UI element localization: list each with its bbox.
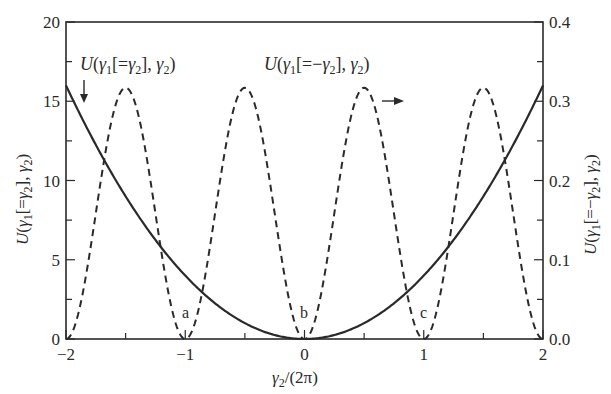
y-right-tick-label: 0.2 (549, 172, 570, 191)
annotation-solid-label: U(γ1[=γ2], γ2) (80, 54, 175, 77)
annotation-solid-curve: U(γ1[=γ2], γ2) (80, 54, 175, 103)
point-label-c: c (420, 304, 427, 321)
y-right-tick-label: 0.0 (549, 330, 570, 349)
curves (66, 85, 543, 339)
y-right-tick-label: 0.4 (549, 13, 571, 32)
y-left-tick-label: 20 (43, 13, 60, 32)
y-axis-right-title: U(γ1[=−γ2], γ2) (581, 154, 603, 255)
y-left-tick-label: 0 (52, 330, 61, 349)
x-tick-label: 0 (300, 345, 309, 364)
x-axis-title: γ2/(2π) (272, 368, 318, 390)
point-label-a: a (182, 304, 189, 321)
annotation-dashed-label: U(γ1[=−γ2], γ2) (264, 54, 370, 77)
arrow-down-icon (80, 80, 88, 103)
chart: −2−1012051015200.00.10.20.30.4 U(γ1[=γ2]… (0, 0, 611, 394)
solid-curve-series (66, 85, 543, 339)
y-axis-left-title: U(γ1[=γ2], γ2) (13, 154, 35, 245)
point-label-b: b (300, 304, 308, 321)
y-right-tick-label: 0.1 (549, 251, 570, 270)
x-tick-label: −1 (176, 345, 194, 364)
plot-area: −2−1012051015200.00.10.20.30.4 U(γ1[=γ2]… (0, 0, 611, 394)
arrow-right-icon (382, 97, 404, 105)
y-left-tick-label: 5 (52, 251, 61, 270)
x-tick-label: 2 (539, 345, 548, 364)
annotation-dashed-curve: U(γ1[=−γ2], γ2) (264, 54, 404, 105)
y-right-tick-label: 0.3 (549, 92, 570, 111)
x-tick-label: 1 (420, 345, 429, 364)
y-left-tick-label: 10 (43, 172, 60, 191)
y-left-tick-label: 15 (43, 92, 60, 111)
